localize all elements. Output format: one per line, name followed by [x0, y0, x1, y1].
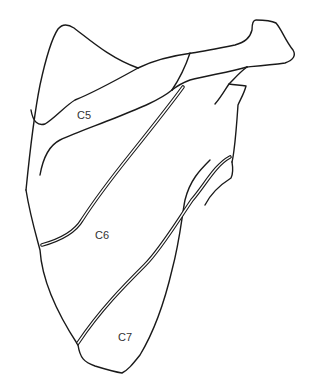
scapula-outline-medial-lower	[26, 190, 78, 345]
c6-c7-boundary-line	[78, 157, 230, 343]
c7-label: C7	[118, 332, 132, 343]
c5-c6-boundary-line	[42, 87, 183, 245]
scapula-diagram	[0, 0, 313, 380]
scapular-spine-upper	[138, 20, 294, 68]
c6-label: C6	[95, 230, 109, 241]
c5-label: C5	[77, 110, 91, 121]
c5-c6-boundary-line-inner	[42, 87, 183, 245]
c5-lower-curve	[40, 90, 172, 175]
lateral-border-upper	[205, 162, 233, 205]
glenoid-hook	[229, 84, 246, 162]
